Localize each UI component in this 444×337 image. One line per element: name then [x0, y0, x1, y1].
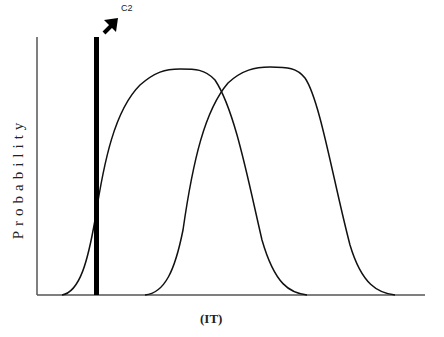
x-axis-label: (IT): [200, 311, 222, 327]
y-axis-label: Probability: [4, 88, 34, 268]
diagram: Probability (IT) C2: [0, 0, 444, 337]
arrow-icon: [104, 18, 118, 33]
c2-threshold-bar: [94, 37, 99, 295]
plot-canvas: [0, 0, 444, 337]
c2-label: C2: [121, 3, 133, 13]
